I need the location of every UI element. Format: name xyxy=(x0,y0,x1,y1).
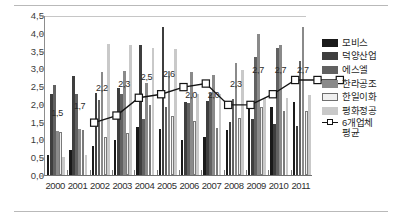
bar-cluster xyxy=(157,16,179,175)
x-axis-tick-label: 2004 xyxy=(135,180,155,191)
legend-item[interactable]: 에스엘 xyxy=(322,63,400,77)
line-point-label: 2,2 xyxy=(96,84,108,93)
x-axis-tick-label: 2006 xyxy=(179,180,199,191)
x-axis-tick-label: 2000 xyxy=(45,180,65,191)
x-axis-tick-mark xyxy=(179,170,180,175)
x-axis-tick-label: 2002 xyxy=(90,180,110,191)
top-divider-rule xyxy=(14,5,388,6)
chart-legend: 모비스덕양산업에스엘한라공조한일이화평화정공6개업체평균 xyxy=(322,36,400,139)
legend-swatch-icon xyxy=(322,80,338,88)
line-point-label: 2,7 xyxy=(252,66,264,75)
x-axis-tick-mark xyxy=(134,170,135,175)
x-axis-tick-mark xyxy=(268,170,269,175)
line-point-label: 2,0 xyxy=(208,91,220,100)
x-axis-tick-mark xyxy=(112,170,113,175)
x-axis-tick-mark xyxy=(157,170,158,175)
bar-cluster xyxy=(112,16,134,175)
x-axis-tick-label: 2009 xyxy=(246,180,266,191)
bar xyxy=(152,48,155,175)
bar-cluster xyxy=(268,16,290,175)
x-axis-tick-label: 2005 xyxy=(157,180,177,191)
x-axis-labels: 2000200120022003200420052006200720082009… xyxy=(44,180,312,198)
legend-item[interactable]: 덕양산업 xyxy=(322,50,400,64)
bar xyxy=(107,44,110,175)
bar-cluster xyxy=(90,16,112,175)
line-point-label: 2,6 xyxy=(163,70,175,79)
legend-swatch-icon xyxy=(322,107,338,115)
legend-swatch-icon xyxy=(322,93,338,101)
bar xyxy=(62,157,65,175)
x-axis-tick-label: 2008 xyxy=(224,180,244,191)
line-point-label: 2,0 xyxy=(185,91,197,100)
line-point-label: 2,3 xyxy=(230,80,242,89)
x-axis-tick-label: 2001 xyxy=(68,180,88,191)
x-axis-tick-label: 2007 xyxy=(202,180,222,191)
legend-swatch-icon xyxy=(322,66,338,74)
bar-cluster xyxy=(134,16,156,175)
x-axis-tick-mark xyxy=(291,170,292,175)
x-axis-tick-mark xyxy=(90,170,91,175)
legend-item[interactable]: 한라공조 xyxy=(322,77,400,91)
legend-swatch-icon xyxy=(322,52,338,60)
bar xyxy=(129,45,132,175)
bar xyxy=(196,94,199,175)
chart-plot-area: 0,00,51,01,52,02,53,03,54,04,5 1,51,72,2… xyxy=(6,16,318,202)
line-point-label: 2,3 xyxy=(118,80,130,89)
legend-item-label: 한일이화 xyxy=(342,92,377,102)
legend-item[interactable]: 한일이화 xyxy=(322,90,400,104)
x-axis-tick-label: 2003 xyxy=(112,180,132,191)
plot-wrapper: 0,00,51,01,52,02,53,03,54,04,5 1,51,72,2… xyxy=(6,16,318,176)
bar xyxy=(263,98,266,175)
legend-item-average[interactable]: 6개업체평균 xyxy=(322,118,400,140)
x-axis-tick-mark xyxy=(201,170,202,175)
line-point-label: 2,5 xyxy=(141,73,153,82)
line-point-label: 1,5 xyxy=(51,109,63,118)
legend-item-label: 모비스 xyxy=(342,38,368,48)
bar-cluster xyxy=(224,16,246,175)
bar-cluster xyxy=(291,16,313,175)
legend-line-marker-icon xyxy=(322,118,338,127)
average-line-marker xyxy=(314,76,321,83)
legend-item[interactable]: 모비스 xyxy=(322,36,400,50)
line-point-label: 2,7 xyxy=(297,66,309,75)
bar-cluster xyxy=(67,16,89,175)
bar xyxy=(85,155,88,175)
line-point-label: 1,7 xyxy=(74,102,86,111)
x-axis-tick-mark xyxy=(67,170,68,175)
legend-item[interactable]: 평화정공 xyxy=(322,104,400,118)
x-axis-tick-mark xyxy=(224,170,225,175)
legend-item-label: 덕양산업 xyxy=(342,51,377,61)
line-point-label: 2,7 xyxy=(275,66,287,75)
chart-figure: 0,00,51,01,52,02,53,03,54,04,5 1,51,72,2… xyxy=(0,0,402,218)
bar xyxy=(308,95,311,175)
x-axis-tick-mark xyxy=(246,170,247,175)
legend-item-label: 한라공조 xyxy=(342,79,377,89)
legend-item-label: 평화정공 xyxy=(342,106,377,116)
bar-cluster xyxy=(246,16,268,175)
bar xyxy=(219,94,222,175)
legend-swatch-icon xyxy=(322,39,338,47)
bottom-divider-rule xyxy=(14,211,388,212)
legend-item-label: 에스엘 xyxy=(342,65,368,75)
x-axis-tick-label: 2011 xyxy=(291,180,310,191)
x-axis-tick-label: 2010 xyxy=(269,180,289,191)
bar-cluster xyxy=(45,16,67,175)
bar xyxy=(286,98,289,176)
legend-average-label: 6개업체평균 xyxy=(342,118,373,140)
plot-box xyxy=(44,16,312,176)
